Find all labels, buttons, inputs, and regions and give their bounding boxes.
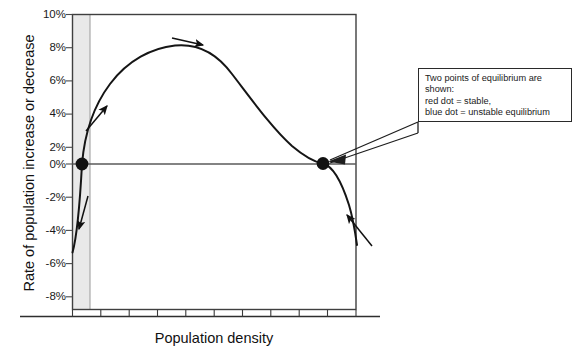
y-axis-title: Rate of population increase or decrease: [21, 3, 37, 323]
equilibrium-callout-box: Two points of equilibrium are shown: red…: [418, 68, 572, 122]
y-tick-4: 4%: [32, 108, 66, 118]
x-axis-ticks: [73, 310, 357, 317]
y-tick-neg2: -2%: [32, 192, 66, 202]
callout-line-1: Two points of equilibrium are: [425, 73, 566, 84]
y-tick-neg6: -6%: [32, 258, 66, 268]
callout-line-2: shown:: [425, 84, 566, 95]
callout-line-3: red dot = stable,: [425, 96, 566, 107]
plot-frame: [73, 15, 357, 310]
arrow-growth-slowing: [172, 38, 203, 45]
stable-equilibrium-dot: [76, 158, 89, 171]
growth-rate-curve: [73, 45, 358, 252]
y-axis-ticks: [66, 15, 73, 297]
y-tick-2: 2%: [32, 142, 66, 152]
y-tick-8: 8%: [32, 42, 66, 52]
y-tick-neg8: -8%: [32, 291, 66, 301]
x-axis-title: Population density: [72, 330, 356, 346]
y-tick-neg4: -4%: [32, 225, 66, 235]
unstable-equilibrium-dot: [317, 157, 330, 170]
callout-line-4: blue dot = unstable equilibrium: [425, 107, 566, 118]
arrow-return-to-equilibrium: [347, 215, 372, 246]
y-tick-6: 6%: [32, 75, 66, 85]
figure-root: 10% 8% 6% 4% 2% 0% -2% -4% -6% -8% Rate …: [0, 0, 580, 360]
population-growth-rate-chart: [0, 0, 580, 360]
y-tick-10: 10%: [32, 9, 66, 19]
callout-leader-upper: [330, 122, 418, 160]
y-tick-0: 0%: [32, 159, 66, 169]
